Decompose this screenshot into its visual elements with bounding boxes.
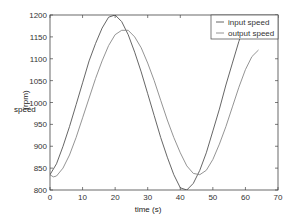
y-tick-label: 1100	[30, 55, 48, 64]
x-tick-label: 10	[78, 193, 87, 202]
x-tick-label: 50	[208, 193, 217, 202]
y-tick-label: 1150	[30, 33, 48, 42]
y-tick-label: 800	[34, 186, 48, 195]
x-tick-label: 60	[241, 193, 250, 202]
y-tick-label: 900	[34, 142, 48, 151]
legend-entry-label: output speed	[228, 29, 274, 38]
y-tick-label: 950	[34, 120, 48, 129]
line-chart: 010203040506070 800850900950100010501100…	[0, 0, 292, 219]
x-axis-label: time (s)	[135, 205, 162, 214]
x-tick-label: 0	[48, 193, 53, 202]
y-tick-label: 850	[34, 164, 48, 173]
y-tick-label: 1200	[29, 11, 47, 20]
y-tick-label: 1050	[29, 77, 47, 86]
x-tick-label: 40	[176, 193, 185, 202]
x-tick-label: 30	[143, 193, 152, 202]
x-tick-label: 70	[274, 193, 283, 202]
x-tick-label: 20	[111, 193, 120, 202]
legend: input speedoutput speed	[211, 15, 278, 39]
legend-entry-label: input speed	[228, 18, 269, 27]
plot-area	[50, 15, 278, 190]
y-axis-unit: (rpm)	[21, 90, 30, 109]
